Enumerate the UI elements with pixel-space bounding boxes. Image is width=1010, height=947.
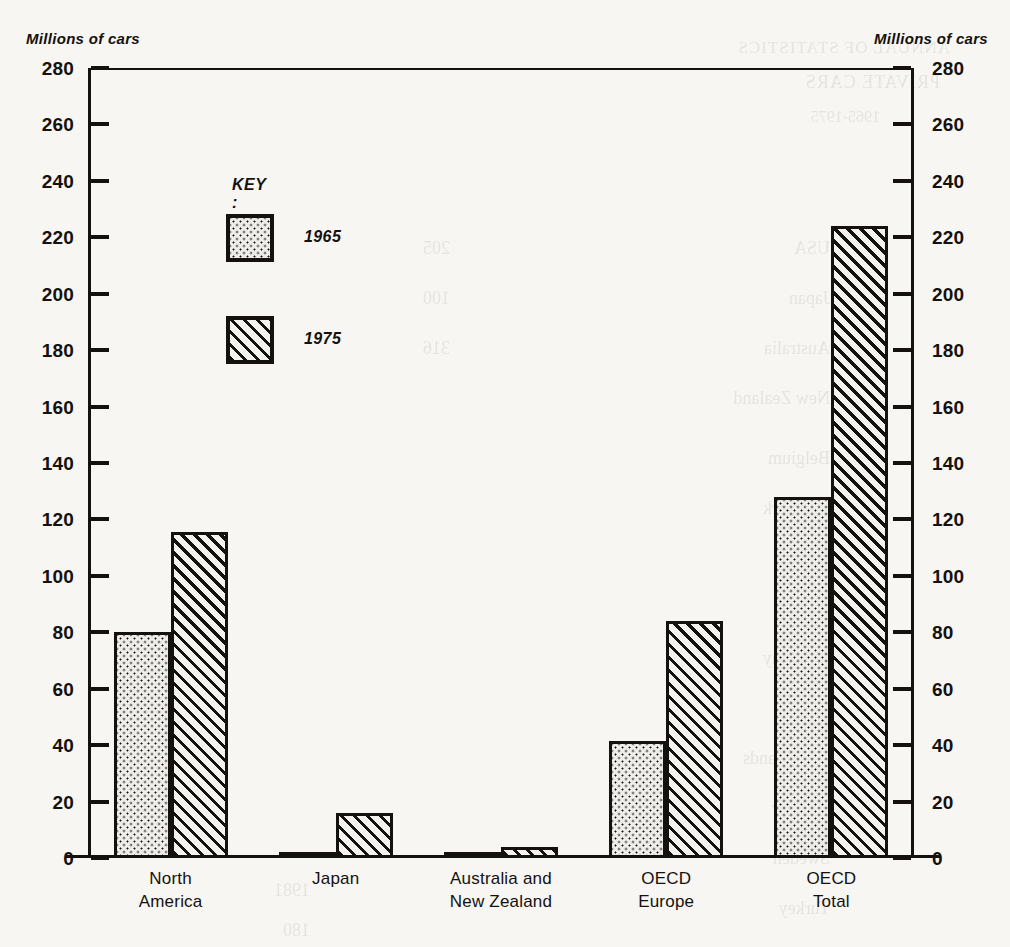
y-tick-label-right: 280: [932, 59, 996, 78]
y-tick-label-left: 80: [10, 623, 74, 642]
bar-1965-oecd-europe: [609, 741, 666, 858]
bar-1975-oecd-europe: [666, 621, 723, 858]
y-tick-label-left: 220: [10, 228, 74, 247]
bar-group: [774, 68, 888, 858]
y-tick-label-left: 240: [10, 172, 74, 191]
y-tick-label-right: 180: [932, 341, 996, 360]
y-tick-label-right: 200: [932, 285, 996, 304]
y-tick-label-right: 80: [932, 623, 996, 642]
bar-1965-north-america: [114, 632, 171, 858]
bar-1975-japan: [336, 813, 393, 858]
y-tick-label-left: 260: [10, 115, 74, 134]
y-tick-label-right: 140: [932, 454, 996, 473]
y-axis-title-left: Millions of cars: [26, 30, 140, 47]
bar-group: [279, 68, 393, 858]
y-tick-label-left: 0: [10, 849, 74, 868]
bar-series-container: [88, 68, 914, 858]
y-axis-labels-right: 020406080100120140160180200220240260280: [932, 68, 996, 858]
x-axis-label-line: OECD: [729, 868, 934, 891]
bar-1975-north-america: [171, 532, 228, 858]
x-axis-label-line: Total: [729, 891, 934, 914]
y-tick-label-right: 0: [932, 849, 996, 868]
y-tick-label-left: 120: [10, 510, 74, 529]
bar-group: [114, 68, 228, 858]
y-tick-label-right: 40: [932, 736, 996, 755]
legend-title: KEY :: [232, 176, 266, 212]
chart-page: Millions of cars Millions of cars 020406…: [0, 0, 1010, 947]
plot-area: KEY : 1965 1975: [88, 68, 914, 858]
y-tick-label-right: 100: [932, 567, 996, 586]
bar-group: [444, 68, 558, 858]
y-tick-label-right: 220: [932, 228, 996, 247]
x-axis-label-line: America: [68, 891, 273, 914]
bar-1965-oecd-total: [774, 497, 831, 858]
y-axis-title-right: Millions of cars: [874, 30, 988, 47]
legend-label-1965: 1965: [304, 228, 341, 246]
y-axis-labels-left: 020406080100120140160180200220240260280: [10, 68, 74, 858]
y-tick-label-right: 240: [932, 172, 996, 191]
y-tick-label-right: 160: [932, 398, 996, 417]
y-tick-label-left: 60: [10, 680, 74, 699]
y-tick-label-left: 160: [10, 398, 74, 417]
y-tick-label-right: 260: [932, 115, 996, 134]
y-tick-label-left: 20: [10, 793, 74, 812]
y-tick-label-left: 40: [10, 736, 74, 755]
y-tick-label-left: 140: [10, 454, 74, 473]
bar-1975-australia-and-new-zealand: [501, 847, 558, 858]
y-tick-label-right: 60: [932, 680, 996, 699]
y-tick-label-left: 280: [10, 59, 74, 78]
bar-1965-australia-and-new-zealand: [444, 852, 501, 858]
x-axis-labels: NorthAmericaJapanAustralia andNew Zealan…: [88, 868, 914, 938]
legend-label-1975: 1975: [304, 330, 341, 348]
legend-swatch-1975: [226, 316, 274, 364]
bar-group: [609, 68, 723, 858]
y-tick-label-left: 180: [10, 341, 74, 360]
x-axis-label: OECDTotal: [729, 868, 934, 914]
legend-swatch-1965: [226, 214, 274, 262]
bar-1965-japan: [279, 852, 336, 858]
y-tick-label-left: 200: [10, 285, 74, 304]
y-tick-label-left: 100: [10, 567, 74, 586]
bar-1975-oecd-total: [831, 226, 888, 858]
y-tick-label-right: 20: [932, 793, 996, 812]
y-tick-label-right: 120: [932, 510, 996, 529]
